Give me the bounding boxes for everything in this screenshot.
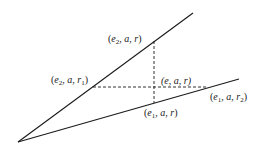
label-e-a-r: (e, a, r) [161,76,191,86]
paren-close: ) [85,74,88,85]
paren-close: ) [244,91,247,102]
paren-close: ) [138,33,141,44]
diagram-svg [0,0,263,154]
label-e2-a-r: (e2, a, r) [108,34,142,46]
paren-close: ) [174,107,177,118]
label-e1-a-r: (e1, a, r) [144,108,178,120]
var-mid: , a, r [62,74,81,85]
diagram-canvas: (e2, a, r) (e2, a, r1) (e, a, r) (e1, a,… [0,0,263,154]
label-e1-a-r2: (e1, a, r2) [210,92,247,104]
lower-ray [18,79,239,142]
var-rest: , a, r [119,33,138,44]
label-e2-a-r1: (e2, a, r1) [51,75,88,87]
var-mid: , a, r [221,91,240,102]
var-rest: , a, r [155,107,174,118]
